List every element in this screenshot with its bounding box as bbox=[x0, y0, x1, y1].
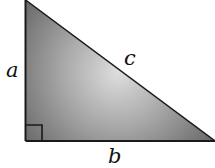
label-a: a bbox=[6, 58, 19, 82]
label-c: c bbox=[124, 46, 136, 70]
triangle-diagram: a b c bbox=[0, 0, 215, 168]
label-b: b bbox=[108, 144, 121, 168]
